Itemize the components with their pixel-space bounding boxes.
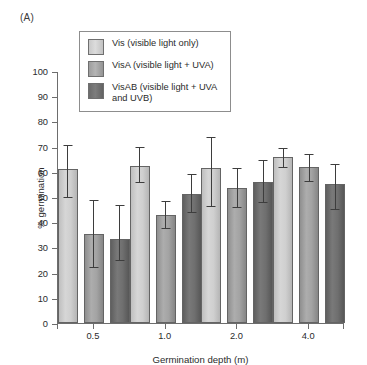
x-axis-tick-label: 4.0 xyxy=(302,331,315,341)
y-axis-tick-label: 50 xyxy=(38,193,48,203)
error-bar xyxy=(161,201,170,229)
bar[interactable] xyxy=(227,188,247,323)
y-axis-tick-label: 30 xyxy=(38,243,48,253)
legend-swatch-vis-icon xyxy=(88,39,104,55)
bar-slot xyxy=(273,72,293,323)
x-axis-tick-label: 1.0 xyxy=(158,331,171,341)
x-axis-tick xyxy=(236,324,237,329)
bar-slot xyxy=(299,72,319,323)
error-bar xyxy=(207,137,216,208)
bar-slot xyxy=(201,72,221,323)
bar-group xyxy=(202,72,274,323)
bar[interactable] xyxy=(273,157,293,323)
error-bar-cap-top xyxy=(89,200,98,201)
error-bar xyxy=(233,168,242,208)
error-bar xyxy=(305,154,314,182)
y-axis-tick xyxy=(52,97,57,98)
y-axis-tick xyxy=(52,72,57,73)
bar-slot xyxy=(227,72,247,323)
bar[interactable] xyxy=(156,215,176,323)
error-bar-stem xyxy=(309,154,310,182)
y-axis-tick xyxy=(52,198,57,199)
bar-slot xyxy=(182,72,202,323)
y-axis-tick xyxy=(52,173,57,174)
error-bar xyxy=(89,200,98,268)
bar-group xyxy=(130,72,202,323)
bar[interactable] xyxy=(299,167,319,323)
error-bar xyxy=(115,205,124,262)
bar-slot xyxy=(130,72,150,323)
error-bar-stem xyxy=(139,147,140,184)
y-axis-tick xyxy=(52,248,57,249)
error-bar-cap-bottom xyxy=(63,197,72,198)
y-axis-tick-label: 100 xyxy=(32,67,48,77)
x-axis-boundary-tick xyxy=(343,324,344,329)
y-axis-tick-label: 40 xyxy=(38,218,48,228)
error-bar-stem xyxy=(211,137,212,208)
error-bar-cap-bottom xyxy=(207,206,216,207)
error-bar-cap-bottom xyxy=(161,228,170,229)
error-bar-cap-top xyxy=(305,154,314,155)
error-bar-stem xyxy=(119,205,120,262)
y-axis-tick xyxy=(52,122,57,123)
error-bar-stem xyxy=(283,148,284,168)
error-bar-cap-bottom xyxy=(331,209,340,210)
error-bar-cap-bottom xyxy=(233,207,242,208)
error-bar-stem xyxy=(263,160,264,203)
bar[interactable] xyxy=(130,166,150,324)
bar-slot xyxy=(84,72,104,323)
x-axis-tick-label: 0.5 xyxy=(86,331,99,341)
error-bar-cap-top xyxy=(161,201,170,202)
plot-area: % germination 0102030405060708090100 0.5… xyxy=(57,72,344,324)
legend-label-vis: Vis (visible light only) xyxy=(112,38,199,49)
error-bar-cap-bottom xyxy=(89,267,98,268)
error-bar-cap-bottom xyxy=(135,182,144,183)
legend-item-vis: Vis (visible light only) xyxy=(88,38,223,55)
error-bar-stem xyxy=(237,168,238,208)
error-bar-stem xyxy=(335,164,336,209)
x-axis-tick xyxy=(165,324,166,329)
legend-label-visa: VisA (visible light + UVA) xyxy=(112,60,214,71)
x-axis-tick xyxy=(93,324,94,329)
error-bar-cap-bottom xyxy=(305,181,314,182)
y-axis-tick-label: 0 xyxy=(43,319,48,329)
error-bar-cap-top xyxy=(259,160,268,161)
panel-label: (A) xyxy=(20,12,34,23)
x-axis-tick xyxy=(308,324,309,329)
error-bar xyxy=(279,148,288,168)
y-axis-tick xyxy=(52,274,57,275)
error-bar-stem xyxy=(93,200,94,268)
y-axis-tick xyxy=(52,299,57,300)
y-axis-tick xyxy=(52,148,57,149)
error-bar-stem xyxy=(67,145,68,198)
bar[interactable] xyxy=(182,194,202,323)
y-axis-tick-label: 60 xyxy=(38,168,48,178)
bar-groups xyxy=(58,72,344,323)
error-bar xyxy=(331,164,340,209)
error-bar-cap-top xyxy=(233,168,242,169)
x-axis-title: Germination depth (m) xyxy=(153,354,249,365)
bar-group xyxy=(273,72,345,323)
y-axis-tick-label: 70 xyxy=(38,143,48,153)
error-bar xyxy=(259,160,268,203)
error-bar-cap-top xyxy=(115,205,124,206)
y-axis-tick-label: 90 xyxy=(38,92,48,102)
error-bar-cap-bottom xyxy=(115,260,124,261)
y-axis-tick-label: 20 xyxy=(38,269,48,279)
error-bar-cap-top xyxy=(135,147,144,148)
bar-group xyxy=(58,72,130,323)
error-bar-cap-bottom xyxy=(259,202,268,203)
x-axis-boundary-tick xyxy=(57,324,58,329)
error-bar-stem xyxy=(165,201,166,229)
error-bar xyxy=(135,147,144,184)
error-bar-cap-top xyxy=(63,145,72,146)
y-axis-tick-label: 10 xyxy=(38,294,48,304)
bar-slot xyxy=(325,72,345,323)
bar-slot xyxy=(253,72,273,323)
x-axis-line xyxy=(57,323,344,324)
error-bar xyxy=(187,174,196,213)
error-bar-cap-top xyxy=(207,137,216,138)
error-bar-cap-top xyxy=(279,148,288,149)
bar-slot xyxy=(156,72,176,323)
